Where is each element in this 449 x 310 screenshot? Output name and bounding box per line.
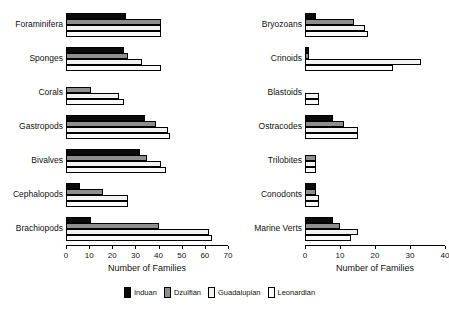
chart-legend: InduanDzulfianGuadalupianLeonardian bbox=[0, 284, 439, 300]
plot-area-left bbox=[66, 8, 228, 246]
bar-group bbox=[305, 183, 445, 207]
category-label-bryozoans: Bryozoans bbox=[262, 20, 302, 29]
x-tick-label: 0 bbox=[64, 251, 68, 260]
x-tick bbox=[182, 246, 183, 249]
bar-group bbox=[305, 149, 445, 173]
x-tick bbox=[410, 246, 411, 249]
legend-item-leonardian: Leonardian bbox=[268, 287, 316, 298]
x-tick-label: 10 bbox=[336, 251, 345, 260]
bar-leonardian-bryozoans bbox=[305, 31, 368, 37]
x-tick-label: 10 bbox=[85, 251, 94, 260]
category-label-ostracodes: Ostracodes bbox=[259, 122, 302, 131]
x-tick bbox=[375, 246, 376, 249]
category-label-sponges: Sponges bbox=[29, 54, 63, 63]
legend-item-induan: Induan bbox=[124, 287, 157, 298]
bar-group bbox=[305, 217, 445, 241]
legend-swatch-icon bbox=[124, 287, 131, 298]
legend-swatch-icon bbox=[208, 287, 215, 298]
bar-leonardian-crinoids bbox=[305, 65, 393, 71]
bar-leonardian-foraminifera bbox=[66, 31, 161, 37]
x-tick bbox=[205, 246, 206, 249]
legend-label: Dzulfian bbox=[174, 288, 201, 297]
bar-leonardian-conodonts bbox=[305, 201, 319, 207]
x-tick-label: 30 bbox=[406, 251, 415, 260]
category-label-cephalopods: Cephalopods bbox=[13, 190, 63, 199]
category-label-corals: Corals bbox=[38, 88, 63, 97]
chart-panel-left: ForaminiferaSpongesCoralsGastropodsBival… bbox=[0, 0, 232, 272]
bar-group bbox=[66, 149, 228, 173]
bar-group bbox=[66, 183, 228, 207]
category-label-marine-verts: Marine Verts bbox=[254, 224, 302, 233]
category-label-crinoids: Crinoids bbox=[271, 54, 302, 63]
x-tick-label: 30 bbox=[131, 251, 140, 260]
category-label-trilobites: Trilobites bbox=[268, 156, 302, 165]
legend-label: Leonardian bbox=[278, 288, 316, 297]
x-tick-label: 0 bbox=[303, 251, 307, 260]
bar-leonardian-ostracodes bbox=[305, 133, 358, 139]
chart-panel-right: BryozoansCrinoidsBlastoidsOstracodesTril… bbox=[232, 0, 439, 272]
x-tick bbox=[340, 246, 341, 249]
bar-group bbox=[305, 115, 445, 139]
x-tick bbox=[228, 246, 229, 249]
x-tick-label: 60 bbox=[200, 251, 209, 260]
legend-swatch-icon bbox=[164, 287, 171, 298]
x-tick-label: 20 bbox=[108, 251, 117, 260]
plot-area-right bbox=[305, 8, 445, 246]
legend-label: Induan bbox=[134, 288, 157, 297]
x-tick bbox=[89, 246, 90, 249]
bar-leonardian-gastropods bbox=[66, 133, 170, 139]
bar-group bbox=[66, 81, 228, 105]
x-tick-label: 40 bbox=[154, 251, 163, 260]
bar-group bbox=[305, 47, 445, 71]
x-axis-title: Number of Families bbox=[66, 263, 228, 273]
bar-leonardian-trilobites bbox=[305, 167, 316, 173]
bar-leonardian-brachiopods bbox=[66, 235, 212, 241]
bar-group bbox=[66, 13, 228, 37]
legend-item-guadalupian: Guadalupian bbox=[208, 287, 261, 298]
legend-label: Guadalupian bbox=[218, 288, 261, 297]
bar-group bbox=[66, 47, 228, 71]
category-label-conodonts: Conodonts bbox=[261, 190, 302, 199]
x-tick-label: 20 bbox=[371, 251, 380, 260]
bar-group bbox=[66, 217, 228, 241]
x-tick-label: 50 bbox=[177, 251, 186, 260]
legend-item-dzulfian: Dzulfian bbox=[164, 287, 201, 298]
bar-leonardian-bivalves bbox=[66, 167, 166, 173]
x-tick bbox=[305, 246, 306, 249]
x-axis-title: Number of Families bbox=[305, 263, 445, 273]
category-label-blastoids: Blastoids bbox=[268, 88, 303, 97]
x-tick bbox=[135, 246, 136, 249]
category-label-foraminifera: Foraminifera bbox=[15, 20, 63, 29]
bar-leonardian-blastoids bbox=[305, 99, 319, 105]
category-label-brachiopods: Brachiopods bbox=[16, 224, 63, 233]
x-axis-line-left bbox=[66, 245, 228, 246]
x-tick bbox=[112, 246, 113, 249]
category-label-bivalves: Bivalves bbox=[31, 156, 63, 165]
x-tick bbox=[445, 246, 446, 249]
legend-swatch-icon bbox=[268, 287, 275, 298]
bar-group bbox=[305, 13, 445, 37]
bar-leonardian-marine-verts bbox=[305, 235, 351, 241]
x-tick bbox=[159, 246, 160, 249]
x-tick-label: 40 bbox=[441, 251, 449, 260]
x-tick bbox=[66, 246, 67, 249]
bar-leonardian-cephalopods bbox=[66, 201, 128, 207]
bar-group bbox=[305, 81, 445, 105]
bar-leonardian-corals bbox=[66, 99, 124, 105]
category-label-gastropods: Gastropods bbox=[19, 122, 63, 131]
bar-leonardian-sponges bbox=[66, 65, 161, 71]
bar-group bbox=[66, 115, 228, 139]
